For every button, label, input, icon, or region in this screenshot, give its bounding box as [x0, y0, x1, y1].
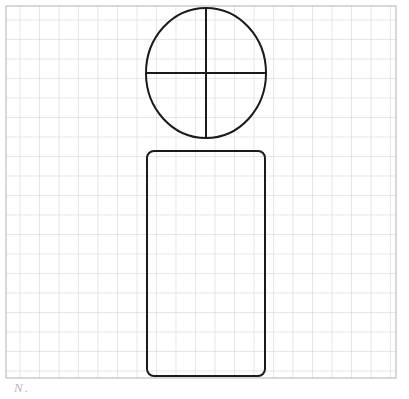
grid-lines	[6, 6, 396, 378]
handwritten-mark: N.	[14, 381, 30, 394]
graph-paper-grid	[6, 6, 396, 378]
drawing-canvas: N.	[0, 0, 409, 399]
figure-svg	[0, 0, 409, 399]
